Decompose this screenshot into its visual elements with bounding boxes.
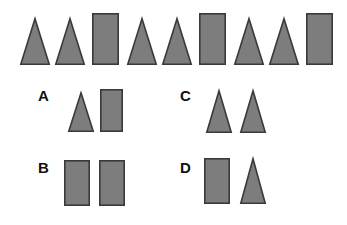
option-b-shape-rectangle-2[interactable]	[99, 160, 125, 206]
option-label-d: D	[180, 160, 191, 175]
option-c-shape-triangle-2[interactable]	[240, 90, 266, 133]
option-label-b: B	[38, 160, 49, 175]
option-label-a: A	[38, 88, 49, 103]
option-a-shape-triangle-1[interactable]	[68, 92, 94, 132]
option-c-shape-triangle-1[interactable]	[206, 90, 232, 133]
option-a-shape-rectangle-2[interactable]	[100, 89, 123, 132]
option-d-shape-triangle-2[interactable]	[240, 158, 266, 204]
option-label-c: C	[180, 88, 191, 103]
answer-options: ABCD	[0, 0, 347, 225]
option-b-shape-rectangle-1[interactable]	[64, 160, 90, 206]
option-d-shape-rectangle-1[interactable]	[204, 158, 230, 204]
shape-sequence-puzzle: ABCD	[0, 0, 347, 225]
